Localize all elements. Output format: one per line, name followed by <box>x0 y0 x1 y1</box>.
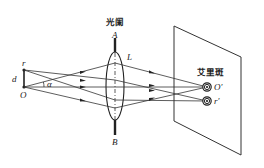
arrowheads-right <box>149 70 155 101</box>
label-A: A <box>112 31 118 40</box>
label-d: d <box>12 75 17 84</box>
label-O-prime: O′ <box>214 83 222 92</box>
angle-alpha-arc <box>43 82 44 87</box>
label-B: B <box>112 138 118 147</box>
optics-drawing <box>0 0 264 168</box>
arrowheads-left <box>80 71 86 101</box>
aperture-label: 光阑 <box>106 18 124 27</box>
airy-disk-diagram: 光阑 A B L r d O α 艾里斑 O′ r′ <box>0 0 264 168</box>
label-r-prime: r′ <box>214 97 219 106</box>
airy-disk-O-prime <box>203 83 211 91</box>
label-alpha: α <box>47 80 52 89</box>
label-L: L <box>127 53 132 62</box>
label-O: O <box>20 91 27 100</box>
label-r: r <box>22 59 26 68</box>
airy-disk-label: 艾里斑 <box>197 68 224 77</box>
airy-disk-r-prime <box>203 97 211 105</box>
